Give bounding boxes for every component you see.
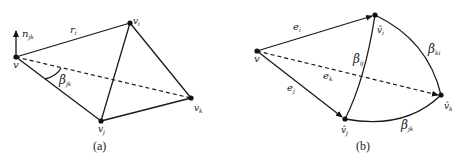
label-vj: vj [98, 124, 105, 136]
edge-vj-vk [101, 98, 191, 121]
label-angle-beta-jk: βjk [58, 73, 72, 88]
edge-vi-vj [101, 23, 130, 121]
edge-ei-arrow [257, 16, 372, 51]
label-edge-ri: ri [70, 24, 77, 36]
panel-b: v v̂i v̂j v̂k ei ek ej βij βki βjk (b) [254, 12, 453, 153]
label-vk: vk [194, 103, 203, 114]
label-beta-jk-b: βjk [400, 118, 414, 133]
vertex-vj [98, 118, 103, 123]
label-beta-ki: βki [427, 42, 441, 56]
caption-b: (b) [356, 139, 370, 153]
label-beta-ij: βij [352, 52, 364, 67]
vertex-vj-hat [342, 116, 347, 121]
arc-beta-jk [345, 95, 441, 122]
vertex-vi [127, 20, 132, 25]
vertex-vk [188, 95, 193, 100]
caption-a: (a) [93, 139, 106, 153]
label-v: v [13, 59, 19, 70]
label-e-j: ej [287, 82, 295, 95]
label-vj-hat: v̂j [341, 125, 348, 137]
label-vi: vi [133, 16, 140, 27]
label-v-b: v [254, 53, 260, 64]
figure-canvas: v vi vj vk njk ri βjk (a) v v̂i v̂j v̂k … [0, 0, 464, 161]
edge-vi-vk [130, 23, 191, 98]
panel-a: v vi vj vk njk ri βjk (a) [13, 16, 203, 153]
edge-ek-arrow-dashed [257, 51, 438, 95]
vertex-vk-hat [438, 92, 443, 97]
vertex-vi-hat [372, 12, 377, 17]
label-vk-hat: v̂k [444, 101, 453, 112]
label-e-i: ei [293, 21, 301, 33]
arc-beta-ij [345, 15, 375, 119]
label-vi-hat: v̂i [377, 25, 384, 36]
label-normal-njk: njk [22, 28, 34, 41]
label-e-k: ek [323, 70, 333, 82]
